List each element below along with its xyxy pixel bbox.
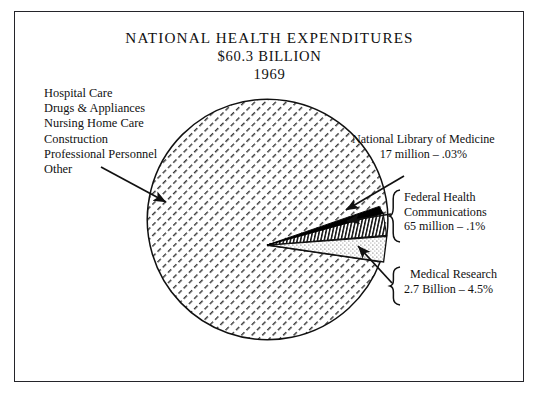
- annotation-title: Medical Research: [404, 267, 497, 282]
- brace-medical-research: [390, 267, 400, 305]
- annotation-medical-research: Medical Research 2.7 Billion – 4.5%: [404, 267, 497, 296]
- chart-page: NATIONAL HEALTH EXPENDITURES $60.3 BILLI…: [0, 0, 539, 406]
- brace-federal-health: [390, 190, 401, 242]
- annotation-federal-health-communications: Federal Health Communications 65 million…: [404, 190, 487, 234]
- annotation-value: 17 million – .03%: [352, 147, 495, 162]
- annotation-national-library-of-medicine: National Library of Medicine 17 million …: [352, 132, 495, 161]
- annotation-value: 65 million – .1%: [404, 219, 487, 234]
- annotation-value: 2.7 Billion – 4.5%: [404, 282, 497, 297]
- annotation-title: National Library of Medicine: [352, 132, 495, 147]
- annotation-title-cont: Communications: [404, 205, 487, 220]
- annotation-title: Federal Health: [404, 190, 487, 205]
